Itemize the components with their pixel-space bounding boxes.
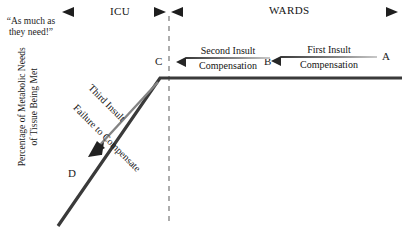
second-insult-arrow-rule — [186, 57, 270, 59]
y-axis-title-line1: Percentage of Metabolic Needs — [17, 47, 27, 166]
point-label-c: C — [155, 55, 162, 67]
phase-label-wards: WARDS — [265, 4, 314, 16]
point-label-a: A — [382, 50, 390, 62]
second-insult-arrow-head — [176, 57, 186, 67]
first-insult-line1: First Insult — [281, 44, 377, 55]
first-insult-line2: Compensation — [281, 59, 377, 70]
first-insult-arrow-rule — [281, 56, 377, 58]
y-axis-title: Percentage of Metabolic Needs of Tissue … — [17, 17, 41, 197]
second-insult-line1: Second Insult — [186, 45, 270, 56]
second-insult-line2: Compensation — [186, 60, 270, 71]
first-insult-annotation: First Insult Compensation — [281, 44, 377, 70]
y-axis-title-line2: of Tissue Being Met — [29, 68, 39, 145]
phase-label-icu: ICU — [106, 5, 134, 17]
third-insult-annotation: Third Insult Failure to Compensate — [60, 78, 176, 194]
metabolic-needs-diagram: ICU WARDS “As much as they need!” Percen… — [0, 0, 403, 237]
second-insult-annotation: Second Insult Compensation — [186, 45, 270, 71]
third-insult-line2: Failure to Compensate — [71, 102, 143, 174]
first-insult-arrow-head — [271, 56, 281, 66]
